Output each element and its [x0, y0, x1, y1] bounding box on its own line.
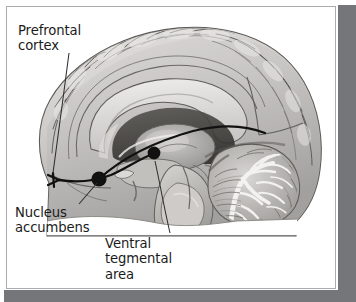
figure-root: Prefrontal cortex Nucleus accumbens Vent…: [0, 0, 356, 302]
card-shadow-bottom: [4, 290, 356, 302]
label-nucleus-accumbens: Nucleus accumbens: [15, 205, 90, 236]
ventral-tegmental-area-marker: [148, 147, 161, 160]
label-prefrontal-cortex: Prefrontal cortex: [18, 23, 81, 54]
card-shadow-corner-notch: [338, 0, 356, 5]
figure-card: Prefrontal cortex Nucleus accumbens Vent…: [6, 6, 336, 289]
nucleus-accumbens-marker: [91, 171, 106, 186]
card-shadow-right: [338, 4, 356, 302]
label-ventral-tegmental-area: Ventral tegmental area: [105, 236, 172, 282]
